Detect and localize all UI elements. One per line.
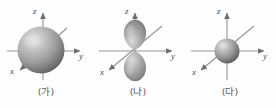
orbital-svg-a: z y x [0, 0, 92, 86]
axis-label-z: z [124, 6, 129, 16]
panel-caption-a: (가) [0, 86, 92, 98]
panel-caption-c: (다) [184, 86, 276, 98]
axis-label-y: y [170, 51, 175, 61]
orbital-svg-c: z y x [184, 0, 276, 86]
orbital-highlight-lower [127, 65, 134, 75]
axis-label-z: z [32, 6, 37, 16]
orbital-svg-b: z y x [92, 0, 184, 86]
orbital-panel-c: z y x (다) [184, 0, 276, 108]
axis-label-x: x [99, 67, 104, 77]
orbital-panel-b: z y x (나) [92, 0, 184, 108]
axis-label-y: y [262, 51, 267, 61]
orbital-sphere [215, 39, 240, 64]
orbital-panel-a: z y x (가) [0, 0, 92, 108]
orbital-highlight-upper [127, 25, 134, 35]
orbital-diagram-figure: z y x (가) [0, 0, 276, 108]
orbital-highlight [219, 43, 228, 50]
axis-label-x: x [9, 66, 14, 76]
orbital-sphere [18, 27, 65, 74]
orbital-lobe-upper [124, 20, 146, 50]
axis-label-y: y [78, 51, 83, 61]
axis-label-x: x [191, 67, 196, 77]
axis-label-z: z [216, 6, 221, 16]
orbital-highlight [25, 35, 42, 48]
panel-caption-b: (나) [92, 86, 184, 98]
